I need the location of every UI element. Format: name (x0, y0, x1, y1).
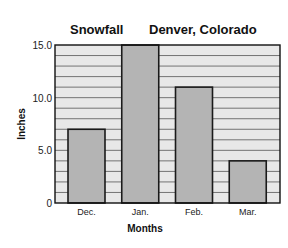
y-tick-label: 5.0 (38, 145, 52, 156)
x-tick-label: Mar. (239, 207, 257, 217)
y-axis-label: Inches (16, 108, 27, 140)
x-tick-label: Dec. (77, 207, 96, 217)
chart: Snowfall Denver, Colorado 05.010.015.0 D… (0, 0, 288, 248)
bar-jan (122, 45, 159, 203)
x-tick-label: Jan. (132, 207, 149, 217)
x-axis-label: Months (127, 223, 163, 234)
bar-dec (68, 129, 105, 203)
chart-title: Snowfall (70, 22, 123, 37)
bar-mar (229, 161, 266, 203)
y-tick-label: 0 (46, 198, 52, 209)
y-axis-ticks: 05.010.015.0 (33, 40, 53, 209)
x-tick-label: Feb. (185, 207, 203, 217)
x-axis-ticks: Dec.Jan.Feb.Mar. (77, 207, 256, 217)
y-tick-label: 15.0 (33, 40, 53, 51)
chart-subtitle: Denver, Colorado (149, 22, 257, 37)
bar-feb (176, 87, 213, 203)
y-tick-label: 10.0 (33, 93, 53, 104)
